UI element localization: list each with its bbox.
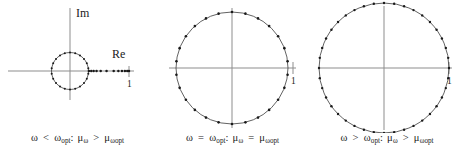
- eigenvalue-marker: [74, 52, 76, 54]
- caption-relation-left: <: [41, 132, 51, 143]
- eigenvalue-marker: [429, 21, 431, 23]
- eigenvalue-marker: [421, 119, 423, 121]
- eigenvalue-marker: [448, 67, 450, 69]
- eigenvalue-marker: [205, 17, 208, 20]
- caption-separator: :: [70, 132, 74, 143]
- eigenvalue-marker: [257, 17, 260, 20]
- panel-omega-less-than-optimal: Im Re 1 ω<ωopt:μω>μωopt: [0, 0, 155, 166]
- axis-label-real: Re: [112, 47, 125, 61]
- caption-mu-omega-sub: ω: [83, 137, 88, 145]
- eigenvalue-marker: [217, 121, 220, 124]
- panel-caption-2: ω=ωopt:μω=μωopt: [155, 132, 310, 144]
- caption-mu-omega-opt-sub: ωopt: [110, 137, 124, 145]
- eigenvalue-marker: [353, 9, 355, 11]
- eigenvalue-marker: [87, 73, 89, 75]
- eigenvalue-marker: [337, 21, 339, 23]
- real-eigenvalue-marker: [90, 70, 93, 73]
- eigenvalue-marker: [403, 5, 405, 7]
- real-eigenvalue-marker: [112, 70, 115, 73]
- eigenvalue-marker: [363, 129, 365, 131]
- caption-omega: ω: [186, 132, 193, 143]
- caption-relation-right: >: [401, 132, 411, 143]
- eigenvalue-marker: [325, 96, 327, 98]
- eigenvalue-marker: [194, 25, 197, 28]
- eigenvalue-marker: [383, 2, 385, 4]
- eigenvalue-marker: [185, 35, 188, 38]
- eigenvalue-marker: [52, 78, 54, 80]
- eigenvalue-marker: [231, 123, 234, 126]
- caption-mu-omega-sub: ω: [238, 137, 243, 145]
- eigenvalue-marker: [79, 54, 81, 56]
- eigenvalue-marker: [447, 57, 449, 59]
- eigenvalue-marker: [74, 88, 76, 90]
- unit-tick-label: 1: [447, 76, 452, 86]
- axes-group-2: [169, 8, 296, 128]
- caption-mu-omega-opt-sub: ωopt: [265, 137, 279, 145]
- complex-plane-plot-1: Im Re 1: [0, 0, 155, 133]
- eigenvalue-marker: [205, 116, 208, 119]
- unit-tick-label: 1: [127, 79, 132, 89]
- eigenvalue-marker: [277, 99, 280, 102]
- argand-diagram-3: 1: [310, 0, 464, 133]
- eigenvalue-marker: [268, 25, 271, 28]
- caption-separator: :: [225, 132, 229, 143]
- real-eigenvalue-marker: [88, 70, 91, 73]
- panel-caption-3: ω>ωopt:μω>μωopt: [310, 132, 464, 144]
- eigenvalue-marker: [283, 47, 286, 50]
- eigenvalue-marker: [87, 67, 89, 69]
- caption-mu-omega-opt-sub: ωopt: [420, 137, 434, 145]
- caption-omega: ω: [31, 132, 38, 143]
- eigenvalue-marker: [435, 105, 437, 107]
- real-eigenvalue-marker: [92, 70, 95, 73]
- eigenvalue-marker: [52, 62, 54, 64]
- argand-diagram-2: 1: [155, 0, 310, 133]
- panel-caption-1: ω<ωopt:μω>μωopt: [0, 132, 155, 144]
- real-eigenvalue-marker: [121, 70, 124, 73]
- real-eigenvalue-marker: [124, 70, 127, 73]
- eigenvalue-marker: [345, 119, 347, 121]
- eigenvalue-marker: [321, 47, 323, 49]
- eigenvalue-marker: [319, 57, 321, 59]
- caption-omega: ω: [340, 132, 347, 143]
- caption-omega-opt-sub: opt: [371, 137, 380, 145]
- eigenvalue-marker: [441, 37, 443, 39]
- eigenvalue-marker: [175, 73, 178, 76]
- panel-omega-equal-optimal: 1 ω=ωopt:μω=μωopt: [155, 0, 310, 166]
- real-eigenvalue-marker: [128, 70, 131, 73]
- argand-diagram-1: Im Re 1: [0, 0, 155, 133]
- eigenvalue-marker: [55, 58, 57, 60]
- eigenvalue-marker: [325, 37, 327, 39]
- caption-omega-opt: ω: [364, 132, 371, 143]
- eigenvalue-marker: [429, 113, 431, 115]
- eigenvalue-marker: [64, 52, 66, 54]
- eigenvalue-marker: [268, 109, 271, 112]
- eigenvalue-marker: [55, 82, 57, 84]
- real-eigenvalue-marker: [95, 70, 98, 73]
- caption-mu-omega-sub: ω: [393, 137, 398, 145]
- eigenvalue-marker: [319, 77, 321, 79]
- eigenvalue-marker: [178, 47, 181, 50]
- axis-label-imaginary: Im: [76, 6, 90, 20]
- eigenvalue-marker: [286, 73, 289, 76]
- eigenvalue-marker: [283, 87, 286, 90]
- caption-omega-opt-sub: opt: [216, 137, 225, 145]
- caption-separator: :: [380, 132, 384, 143]
- eigenvalue-marker: [337, 113, 339, 115]
- eigenvalue-marker: [257, 116, 260, 119]
- eigenvalue-marker: [345, 14, 347, 16]
- eigenvalue-marker: [421, 14, 423, 16]
- eigenvalue-marker: [363, 5, 365, 7]
- eigenvalue-marker: [51, 67, 53, 69]
- real-eigenvalue-marker: [99, 70, 102, 73]
- eigenvalue-marker: [83, 58, 85, 60]
- eigenvalue-marker: [59, 54, 61, 56]
- eigenvalue-marker: [441, 96, 443, 98]
- eigenvalue-marker: [373, 3, 375, 5]
- eigenvalue-marker: [59, 86, 61, 88]
- caption-omega-opt-sub: opt: [61, 137, 70, 145]
- eigenvalue-marker: [244, 12, 247, 15]
- eigenvalue-marker: [178, 87, 181, 90]
- eigenvalue-marker: [445, 87, 447, 89]
- caption-relation-left: =: [196, 132, 206, 143]
- eigenvalue-marker: [321, 87, 323, 89]
